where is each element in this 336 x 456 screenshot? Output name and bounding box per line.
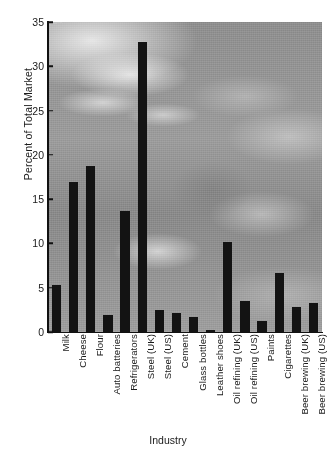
bar	[240, 301, 249, 332]
bar	[138, 42, 147, 332]
x-tick-label-text: Refrigerators	[129, 334, 139, 391]
y-tick-label: 30	[32, 61, 44, 72]
y-tick-mark	[48, 287, 53, 289]
y-axis-tick-labels: 05101520253035	[20, 0, 44, 456]
x-tick-label: Beer brewing (UK)	[300, 334, 310, 415]
y-tick-label: 10	[32, 238, 44, 249]
y-tick-label: 5	[38, 282, 44, 293]
x-tick-label: Leather shoes	[215, 334, 225, 396]
x-tick-label: Oil refining (US)	[249, 334, 259, 404]
bar	[275, 273, 284, 332]
x-tick-label-text: Paints	[266, 334, 276, 361]
x-tick-label-text: Flour	[95, 334, 105, 356]
x-tick-label-text: Auto batteries	[112, 334, 122, 395]
x-tick-label: Steel (US)	[163, 334, 173, 379]
y-tick-label: 20	[32, 150, 44, 161]
x-axis-line	[47, 332, 323, 334]
y-tick-label: 0	[38, 327, 44, 338]
bar	[172, 313, 181, 332]
bar	[52, 285, 61, 332]
bar	[103, 315, 112, 332]
x-tick-label: Cheese	[78, 334, 88, 368]
x-axis-title: Industry	[0, 434, 336, 446]
x-tick-label: Cigarettes	[283, 334, 293, 379]
x-tick-label-text: Oil refining (US)	[249, 334, 259, 404]
x-tick-label-text: Oil refining (UK)	[232, 334, 242, 404]
plot-area	[48, 22, 322, 332]
y-tick-mark	[48, 66, 53, 68]
y-tick-mark	[48, 154, 53, 156]
bar	[120, 211, 129, 332]
y-tick-mark	[48, 198, 53, 200]
y-tick-label: 25	[32, 105, 44, 116]
x-tick-label-text: Beer brewing (UK)	[300, 334, 310, 415]
y-tick-mark	[48, 243, 53, 245]
y-tick-label: 35	[32, 17, 44, 28]
y-tick-label: 15	[32, 194, 44, 205]
bar	[309, 303, 318, 332]
bar	[223, 242, 232, 332]
bar	[257, 321, 266, 333]
bar	[86, 166, 95, 332]
y-tick-mark	[48, 110, 53, 112]
x-tick-label-text: Steel (US)	[163, 334, 173, 379]
bar	[189, 317, 198, 332]
x-tick-label: Flour	[95, 334, 105, 356]
y-tick-mark	[48, 21, 53, 23]
x-tick-label: Glass bottles	[198, 334, 208, 391]
x-axis-tick-labels: MilkCheeseFlourAuto batteriesRefrigerato…	[48, 334, 322, 426]
x-tick-label-text: Milk	[61, 334, 71, 351]
x-tick-label: Steel (UK)	[146, 334, 156, 379]
x-tick-label: Oil refining (UK)	[232, 334, 242, 404]
x-tick-label-text: Leather shoes	[215, 334, 225, 396]
x-tick-label: Milk	[61, 334, 71, 351]
x-tick-label-text: Cheese	[78, 334, 88, 368]
x-tick-label-text: Steel (UK)	[146, 334, 156, 379]
bar	[292, 307, 301, 332]
x-tick-label: Refrigerators	[129, 334, 139, 391]
x-tick-label-text: Cement	[180, 334, 190, 368]
bar	[69, 182, 78, 332]
x-tick-label-text: Cigarettes	[283, 334, 293, 379]
x-tick-label: Paints	[266, 334, 276, 361]
y-axis-line	[47, 21, 49, 333]
bar-series	[48, 22, 322, 332]
x-tick-label: Auto batteries	[112, 334, 122, 395]
x-tick-label-text: Beer brewing (US)	[317, 334, 327, 415]
bar-chart-figure: Percent of Total Market 05101520253035 M…	[0, 0, 336, 456]
x-tick-label-text: Glass bottles	[198, 334, 208, 391]
bar	[155, 310, 164, 332]
x-tick-label: Beer brewing (US)	[317, 334, 327, 415]
x-tick-label: Cement	[180, 334, 190, 368]
